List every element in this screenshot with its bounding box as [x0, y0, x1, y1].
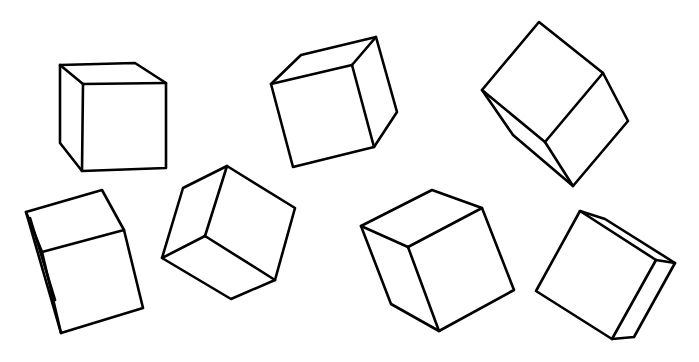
cubes-illustration: [0, 0, 699, 362]
cube-3-inner-edge: [545, 73, 603, 142]
cube-4: [26, 190, 143, 333]
cube-2-outline: [271, 37, 397, 167]
cube-3-inner-edge: [545, 142, 573, 186]
cube-2-inner-edge: [352, 65, 374, 147]
cube-5-inner-edge: [205, 236, 275, 280]
cube-6-inner-edge: [408, 247, 439, 331]
cube-4-inner-edge: [42, 230, 124, 252]
cube-6-inner-edge: [408, 208, 482, 247]
cube-7-inner-edge: [580, 211, 656, 260]
cube-1: [60, 63, 166, 171]
cube-2-inner-edge: [271, 65, 352, 84]
cube-1-inner-edge: [83, 83, 166, 84]
cube-7: [536, 211, 675, 339]
cube-7-inner-edge: [612, 260, 656, 339]
cube-5: [162, 166, 295, 299]
cube-3-outline: [482, 22, 628, 186]
cube-7-outline: [536, 211, 675, 339]
cube-6: [361, 190, 514, 331]
cube-4-inner-edge: [30, 218, 55, 300]
cube-2: [271, 37, 397, 167]
cube-1-inner-edge: [60, 65, 83, 84]
cube-1-inner-edge: [82, 84, 83, 171]
cube-3: [482, 22, 628, 186]
cube-6-outline: [361, 190, 514, 331]
